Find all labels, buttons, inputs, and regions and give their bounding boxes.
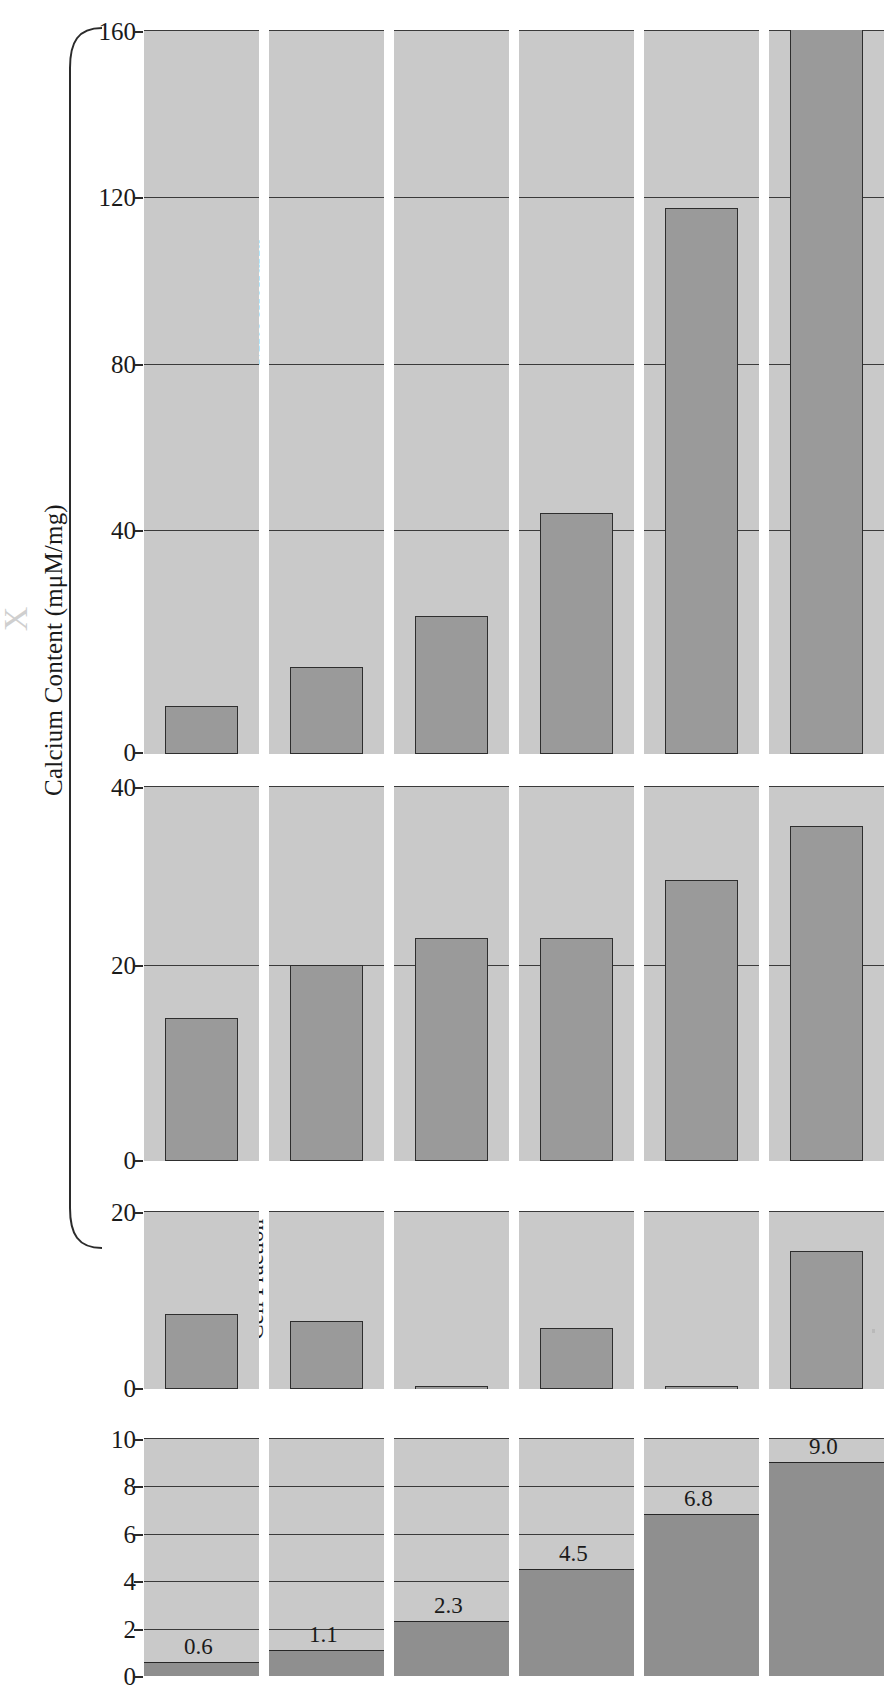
bar-value-5: 6.8 [684, 1486, 713, 1512]
ytick-80: 80 [111, 352, 136, 377]
gridline [144, 965, 259, 966]
gridline [394, 197, 509, 198]
gridline [144, 1629, 259, 1630]
panel-soluble-cell-fraction: Soluble Cell Fraction 20 0 [144, 1211, 888, 1389]
column-6 [769, 1211, 884, 1389]
gridline [394, 30, 509, 31]
gridline [269, 1438, 384, 1439]
bar-mitochondria-2 [290, 667, 363, 754]
bar-value-1: 0.6 [184, 1634, 213, 1660]
gridline [519, 1486, 634, 1487]
gridline [269, 1534, 384, 1535]
gridline [769, 786, 884, 787]
gridline [144, 1486, 259, 1487]
tickmark [134, 1160, 143, 1162]
axis-title-calcium-content: Calcium Content (mμM/mg) [40, 300, 68, 1000]
column-1 [144, 1211, 259, 1389]
speck [872, 1329, 875, 1333]
bar-perfusate-2 [269, 1650, 384, 1676]
gridline [269, 530, 384, 531]
bar-perfusate-4 [519, 1569, 634, 1676]
column-6 [769, 30, 884, 754]
column-4: 4.5 [519, 1438, 634, 1676]
column-1 [144, 786, 259, 1161]
column-4 [519, 1211, 634, 1389]
gridline [144, 1211, 259, 1212]
bar-scf-6 [790, 1251, 863, 1389]
bar-scf-4 [540, 1328, 613, 1389]
bar-mitochondria-1 [165, 706, 238, 754]
bar-sr-4 [540, 938, 613, 1161]
gridline [519, 30, 634, 31]
figure-root: Calcium Content (mμM/mg) Χ Mitochondria … [0, 0, 888, 1701]
column-6 [769, 786, 884, 1161]
bar-scf-1 [165, 1314, 238, 1389]
gridline [269, 786, 384, 787]
bar-mitochondria-6 [790, 30, 863, 754]
gridline [394, 1211, 509, 1212]
gridline [519, 197, 634, 198]
column-5 [644, 1211, 759, 1389]
bar-value-3: 2.3 [434, 1593, 463, 1619]
bar-sr-1 [165, 1018, 238, 1161]
column-1 [144, 30, 259, 754]
gridline [394, 1486, 509, 1487]
column-2 [269, 30, 384, 754]
gridline [519, 1438, 634, 1439]
plot-row-sarcoplasmic [144, 786, 888, 1161]
gridline [394, 364, 509, 365]
gridline [144, 786, 259, 787]
bar-mitochondria-4 [540, 513, 613, 754]
bar-mitochondria-5 [665, 208, 738, 754]
column-2: 1.1 [269, 1438, 384, 1676]
panel-calcium-in-perfusate: Calcium in Perfusate (× 10-3M) 10 8 6 4 … [144, 1438, 888, 1676]
gridline [144, 530, 259, 531]
ytick-scf-20: 20 [111, 1200, 136, 1225]
gridline [144, 30, 259, 31]
bar-scf-2 [290, 1321, 363, 1389]
gridline [269, 364, 384, 365]
tickmark [134, 752, 143, 754]
pencil-mark: Χ [0, 607, 35, 632]
column-3 [394, 786, 509, 1161]
column-3 [394, 30, 509, 754]
gridline [394, 1581, 509, 1582]
gridline [644, 786, 759, 787]
tickmark [134, 1581, 143, 1583]
gridline [519, 364, 634, 365]
panel-sarcoplasmic-reticulum: Sarcoplasmic Reticulum 40 20 0 [144, 786, 888, 1161]
gridline [644, 197, 759, 198]
column-1: 0.6 [144, 1438, 259, 1676]
plot-row-mitochondria [144, 30, 888, 754]
ytick-120: 120 [99, 185, 137, 210]
gridline [519, 786, 634, 787]
bar-scf-5 [665, 1386, 738, 1389]
bar-perfusate-5 [644, 1514, 759, 1676]
bar-value-4: 4.5 [559, 1541, 588, 1567]
gridline [644, 1438, 759, 1439]
plot-row-perfusate: 0.6 1.1 2.3 [144, 1438, 888, 1676]
column-3 [394, 1211, 509, 1389]
tickmark [134, 364, 143, 366]
bar-sr-2 [290, 965, 363, 1161]
gridline [144, 197, 259, 198]
gridline [519, 1211, 634, 1212]
column-4 [519, 786, 634, 1161]
tickmark [134, 1676, 143, 1678]
column-5 [644, 786, 759, 1161]
column-4 [519, 30, 634, 754]
bar-value-2: 1.1 [309, 1622, 338, 1648]
gridline [519, 1534, 634, 1535]
tickmark [134, 1439, 143, 1441]
gridline [769, 1211, 884, 1212]
bar-sr-3 [415, 938, 488, 1161]
tickmark [134, 965, 143, 967]
panel-mitochondria: Mitochondria 160 120 80 40 0 [144, 30, 888, 754]
gridline [394, 786, 509, 787]
gridline [644, 1211, 759, 1212]
bar-perfusate-6 [769, 1462, 884, 1676]
tickmark [134, 530, 143, 532]
tickmark [134, 1629, 143, 1631]
tickmark [134, 31, 143, 33]
gridline [269, 1211, 384, 1212]
